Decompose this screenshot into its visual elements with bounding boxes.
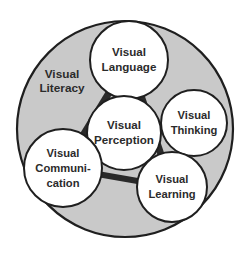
node-label-visual-language-line-1: Visual bbox=[112, 45, 146, 58]
node-label-visual-learning-line-1: Visual bbox=[156, 173, 189, 185]
node-label-visual-learning-line-2: Learning bbox=[148, 188, 195, 200]
node-label-visual-communication-line-3: cation bbox=[47, 177, 80, 189]
node-label-visual-communication-line-1: Visual bbox=[47, 147, 80, 159]
visual-literacy-diagram: Visual Literacy Visual Language Visual T… bbox=[0, 0, 251, 256]
outer-label-line-2: Literacy bbox=[39, 81, 85, 95]
node-label-visual-thinking-line-2: Thinking bbox=[171, 124, 218, 136]
node-visual-communication[interactable]: Visual Communi- cation bbox=[24, 129, 102, 207]
outer-label-line-1: Visual bbox=[45, 67, 80, 81]
node-label-visual-thinking-line-1: Visual bbox=[178, 109, 211, 121]
node-label-visual-perception-line-1: Visual bbox=[107, 118, 141, 131]
node-label-visual-perception-line-2: Perception bbox=[94, 133, 154, 146]
node-visual-language[interactable]: Visual Language bbox=[90, 21, 168, 99]
node-visual-thinking[interactable]: Visual Thinking bbox=[161, 90, 227, 156]
outer-label-visual-literacy: Visual Literacy bbox=[39, 67, 85, 95]
node-visual-learning[interactable]: Visual Learning bbox=[137, 152, 207, 222]
node-label-visual-language-line-2: Language bbox=[102, 60, 157, 73]
diagram-canvas: Visual Literacy Visual Language Visual T… bbox=[0, 0, 251, 256]
node-label-visual-communication-line-2: Communi- bbox=[35, 162, 91, 174]
